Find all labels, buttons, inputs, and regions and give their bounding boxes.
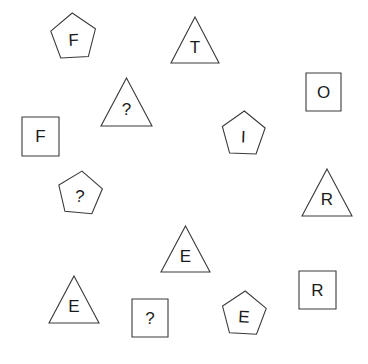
shape-label: T: [190, 38, 200, 57]
shape-square-r: R: [295, 267, 340, 313]
shape-pentagon-f: F: [46, 9, 101, 66]
shape-label: ?: [74, 187, 85, 207]
shape-square-question: ?: [128, 295, 172, 341]
shape-label: ?: [145, 309, 154, 328]
shape-square-f: F: [18, 113, 63, 160]
shape-label: I: [241, 128, 246, 147]
shape-square-o: O: [302, 69, 345, 115]
shape-triangle-e: E: [157, 222, 214, 276]
shape-triangle-e: E: [45, 272, 103, 327]
shape-label: E: [180, 247, 191, 266]
shape-label: F: [68, 30, 79, 50]
shape-label: F: [35, 127, 45, 146]
shape-pentagon-e: E: [217, 287, 271, 342]
shape-triangle-t: T: [167, 13, 223, 67]
shape-pentagon-question: ?: [53, 167, 107, 221]
shape-scene-canvas: FT?OFI?RERE?E: [0, 0, 368, 364]
shape-label: O: [317, 83, 330, 102]
shape-label: R: [321, 190, 333, 209]
shape-pentagon-i: I: [217, 107, 270, 162]
shape-label: E: [238, 307, 250, 327]
shape-label: E: [68, 297, 79, 316]
shape-label: R: [311, 281, 323, 300]
shape-triangle-r: R: [298, 165, 356, 220]
shape-label: ?: [122, 100, 131, 119]
shape-triangle-question: ?: [97, 74, 156, 130]
